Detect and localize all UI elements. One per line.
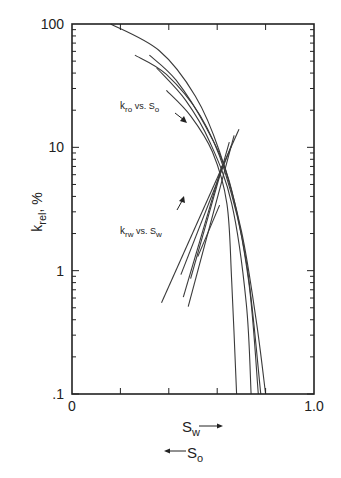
- krw-line: [188, 135, 234, 306]
- arrow-down-right-icon: [175, 113, 187, 123]
- krw-line: [183, 166, 222, 297]
- annotation-krw-vs-sw: krw vs. Sw: [120, 225, 162, 239]
- kro-curve: [111, 24, 266, 394]
- plot-frame: [72, 24, 314, 394]
- x-tick-label: 0: [68, 398, 76, 414]
- axis-ticks: [72, 24, 314, 394]
- krw-line: [181, 145, 232, 275]
- x-tick-label: 1.0: [304, 398, 324, 414]
- arrow-right-icon: [199, 424, 223, 429]
- annotation-kro-vs-so: kro vs. So: [120, 100, 160, 114]
- arrow-left-icon: [164, 449, 186, 454]
- y-tick-label: 10: [48, 139, 64, 155]
- arrow-up-right-icon: [177, 196, 185, 210]
- kro-curve: [149, 55, 258, 394]
- y-tick-label: 100: [41, 16, 65, 32]
- chart-canvas: 100101.101.0 krel, % kro vs. So krw vs. …: [0, 0, 341, 478]
- x-axis-label-sw: Sw: [182, 418, 200, 438]
- data-curves: [111, 24, 266, 394]
- y-tick-label: 1: [56, 263, 64, 279]
- y-axis-label: krel, %: [29, 192, 48, 231]
- x-axis-label-so: So: [187, 444, 203, 464]
- y-tick-label: .1: [52, 386, 64, 402]
- krw-line: [191, 142, 230, 279]
